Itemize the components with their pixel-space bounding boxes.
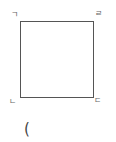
square-shape <box>20 21 94 98</box>
caption-text: ( <box>24 122 30 137</box>
vertex-label-top-left: ㄱ <box>11 11 18 19</box>
vertex-label-top-right: ㄹ <box>95 10 102 18</box>
vertex-label-bottom-right: ㄷ <box>94 97 101 105</box>
vertex-label-bottom-left: ㄴ <box>9 98 16 106</box>
